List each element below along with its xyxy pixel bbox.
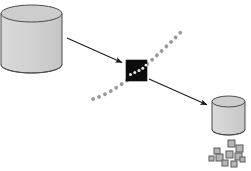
data-fragment-square (240, 157, 245, 162)
arrow-node-to-target-line (149, 79, 207, 105)
processing-node-body (126, 60, 147, 81)
diagram-canvas (0, 0, 251, 171)
output-data-fragments (209, 140, 245, 167)
data-fragment-square (214, 148, 220, 154)
source-database-top-ellipse (1, 5, 62, 22)
data-fragment-square (209, 156, 214, 161)
data-fragment-square (236, 145, 243, 152)
data-fragment-square (231, 161, 237, 167)
data-fragment-square (222, 160, 228, 166)
data-fragment-square (226, 151, 233, 158)
data-flow-diagram (0, 0, 251, 171)
source-database-cylinder (1, 5, 62, 73)
processing-node-square (126, 60, 147, 81)
target-database-cylinder (212, 96, 245, 135)
arrow-source-to-node-line (67, 38, 122, 63)
arrow-node-to-target (149, 79, 207, 105)
data-fragment-square (228, 140, 235, 147)
target-database-top-ellipse (212, 96, 245, 107)
arrow-source-to-node (67, 38, 122, 63)
